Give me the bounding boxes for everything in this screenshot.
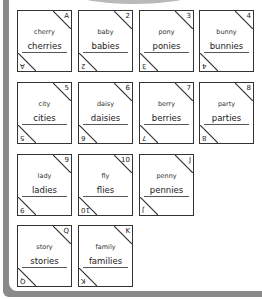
word-card[interactable]: 4bunnybunnies4 bbox=[199, 10, 254, 72]
card-label: 9 bbox=[65, 157, 69, 164]
singular-word: family bbox=[79, 243, 132, 251]
card-label: Q bbox=[63, 228, 69, 235]
corner-label-top-right: K bbox=[114, 226, 132, 244]
singular-word: baby bbox=[79, 28, 132, 36]
singular-word: lady bbox=[18, 172, 71, 180]
card-label: 10 bbox=[121, 157, 130, 164]
corner-label-top-right: 7 bbox=[175, 83, 193, 101]
card-label: 2 bbox=[126, 13, 130, 20]
corner-label-top-right: 9 bbox=[53, 155, 71, 173]
corner-label-bottom-left: J bbox=[140, 197, 158, 215]
corner-label-top-right: J bbox=[175, 155, 193, 173]
corner-label-bottom-left: K bbox=[79, 268, 97, 286]
singular-word: story bbox=[18, 243, 71, 251]
card-label: 3 bbox=[187, 13, 191, 20]
corner-label-top-right: 2 bbox=[114, 11, 132, 29]
frame-left-border bbox=[3, 0, 9, 292]
plural-word: bunnies bbox=[200, 41, 253, 51]
plural-word: berries bbox=[140, 113, 193, 123]
plural-word: cities bbox=[18, 113, 71, 123]
corner-label-top-right: 3 bbox=[175, 11, 193, 29]
singular-word: cherry bbox=[18, 28, 71, 36]
card-label-inverted: 3 bbox=[142, 62, 146, 69]
card-label: K bbox=[125, 228, 130, 235]
card-label: 6 bbox=[126, 85, 130, 92]
corner-label-bottom-left: 10 bbox=[79, 197, 97, 215]
plural-word: babies bbox=[79, 41, 132, 51]
card-label-inverted: 7 bbox=[142, 134, 146, 141]
corner-label-bottom-left: 5 bbox=[18, 125, 36, 143]
singular-word: berry bbox=[140, 100, 193, 108]
word-card[interactable]: 3ponyponies3 bbox=[139, 10, 194, 72]
plural-word: cherries bbox=[18, 41, 71, 51]
word-card[interactable]: 9ladyladies9 bbox=[17, 154, 72, 216]
plural-word: families bbox=[79, 256, 132, 266]
corner-label-top-right: Q bbox=[53, 226, 71, 244]
plural-word: pennies bbox=[140, 185, 193, 195]
corner-label-bottom-left: 9 bbox=[18, 197, 36, 215]
card-label: 4 bbox=[247, 13, 251, 20]
card-label-inverted: 2 bbox=[81, 62, 85, 69]
corner-label-bottom-left: 8 bbox=[200, 125, 218, 143]
singular-word: daisy bbox=[79, 100, 132, 108]
singular-word: fly bbox=[79, 172, 132, 180]
singular-word: pony bbox=[140, 28, 193, 36]
plural-word: daisies bbox=[79, 113, 132, 123]
corner-label-bottom-left: 3 bbox=[140, 53, 158, 71]
card-label-inverted: 6 bbox=[81, 134, 85, 141]
corner-label-top-right: A bbox=[53, 11, 71, 29]
corner-label-top-right: 8 bbox=[235, 83, 253, 101]
plural-word: stories bbox=[18, 256, 71, 266]
plural-word: ponies bbox=[140, 41, 193, 51]
card-label-inverted: K bbox=[81, 277, 86, 284]
singular-word: party bbox=[200, 100, 253, 108]
card-label-inverted: 10 bbox=[81, 206, 90, 213]
word-card[interactable]: 8partyparties8 bbox=[199, 82, 254, 144]
corner-label-bottom-left: Q bbox=[18, 268, 36, 286]
corner-label-top-right: 10 bbox=[114, 155, 132, 173]
singular-word: penny bbox=[140, 172, 193, 180]
top-tab bbox=[78, 0, 190, 4]
card-label-inverted: 8 bbox=[202, 134, 206, 141]
plural-word: parties bbox=[200, 113, 253, 123]
corner-label-top-right: 5 bbox=[53, 83, 71, 101]
corner-label-bottom-left: 4 bbox=[200, 53, 218, 71]
word-card[interactable]: 5citycities5 bbox=[17, 82, 72, 144]
card-label: 7 bbox=[187, 85, 191, 92]
word-card[interactable]: 2babybabies2 bbox=[78, 10, 133, 72]
word-card[interactable]: 10flyflies10 bbox=[78, 154, 133, 216]
card-label-inverted: 9 bbox=[20, 206, 24, 213]
card-label-inverted: 5 bbox=[20, 134, 24, 141]
corner-label-bottom-left: 2 bbox=[79, 53, 97, 71]
word-card[interactable]: JpennypenniesJ bbox=[139, 154, 194, 216]
card-label-inverted: J bbox=[142, 206, 144, 213]
card-label: A bbox=[64, 13, 69, 20]
corner-label-bottom-left: 7 bbox=[140, 125, 158, 143]
card-label-inverted: A bbox=[20, 62, 25, 69]
card-label-inverted: Q bbox=[20, 277, 26, 284]
word-card[interactable]: AcherrycherriesA bbox=[17, 10, 72, 72]
plural-word: flies bbox=[79, 185, 132, 195]
corner-label-top-right: 6 bbox=[114, 83, 132, 101]
card-label: 5 bbox=[65, 85, 69, 92]
singular-word: bunny bbox=[200, 28, 253, 36]
word-card[interactable]: KfamilyfamiliesK bbox=[78, 225, 133, 287]
word-card[interactable]: 6daisydaisies6 bbox=[78, 82, 133, 144]
corner-label-bottom-left: A bbox=[18, 53, 36, 71]
word-card[interactable]: 7berryberries7 bbox=[139, 82, 194, 144]
card-label: 8 bbox=[247, 85, 251, 92]
corner-label-bottom-left: 6 bbox=[79, 125, 97, 143]
frame-bottom-border bbox=[3, 291, 262, 297]
card-label-inverted: 4 bbox=[202, 62, 206, 69]
word-card[interactable]: QstorystoriesQ bbox=[17, 225, 72, 287]
plural-word: ladies bbox=[18, 185, 71, 195]
corner-label-top-right: 4 bbox=[235, 11, 253, 29]
singular-word: city bbox=[18, 100, 71, 108]
card-label: J bbox=[189, 157, 191, 164]
